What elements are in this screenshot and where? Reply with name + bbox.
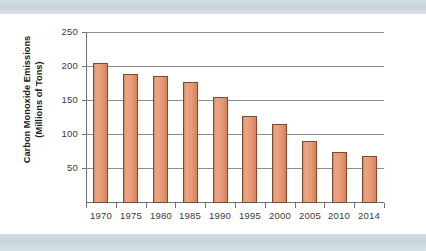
y-axis-tick-label: 150: [46, 95, 78, 105]
y-axis-tick: [82, 32, 86, 33]
bar: [302, 141, 317, 203]
x-axis-tick-labels: 1970197519801985199019952000200520102014: [86, 211, 384, 227]
decorative-band-bottom: [0, 234, 426, 251]
chart-figure: Carbon Monoxide Emissions (Millions of T…: [0, 0, 426, 251]
x-axis-tick-label: 1980: [146, 211, 176, 221]
y-axis-tick-label: 200: [46, 61, 78, 71]
x-axis-tick: [146, 203, 147, 208]
bar: [272, 124, 287, 203]
bar: [332, 152, 347, 203]
y-axis-tick-label: 250: [46, 27, 78, 37]
y-axis-title-line-2: (Millions of Tons): [33, 20, 45, 180]
x-axis-tick: [354, 203, 355, 208]
bar: [93, 63, 108, 203]
bar: [183, 82, 198, 203]
gridline: [86, 66, 384, 67]
bar: [123, 74, 138, 203]
x-axis-tick: [86, 203, 87, 208]
x-axis-tick: [235, 203, 236, 208]
y-axis-tick-labels: 25020015010050: [46, 32, 78, 203]
y-axis-tick: [82, 134, 86, 135]
x-axis-tick-label: 1975: [116, 211, 146, 221]
gridline: [86, 32, 384, 33]
x-axis-tick-label: 2010: [324, 211, 354, 221]
x-axis-tick: [116, 203, 117, 208]
x-axis-tick: [205, 203, 206, 208]
bar: [362, 156, 377, 203]
y-axis-tick: [82, 168, 86, 169]
bar-chart: Carbon Monoxide Emissions (Millions of T…: [0, 14, 426, 234]
x-axis-tick-label: 2014: [354, 211, 384, 221]
x-axis-tick: [295, 203, 296, 208]
y-axis-title: Carbon Monoxide Emissions (Millions of T…: [22, 20, 45, 180]
decorative-band-top: [0, 0, 426, 14]
bar: [213, 97, 228, 203]
y-axis-tick: [82, 66, 86, 67]
x-axis-tick-label: 2005: [295, 211, 325, 221]
y-axis-tick: [82, 100, 86, 101]
y-axis-tick-label: 100: [46, 129, 78, 139]
x-axis-tick-label: 1990: [205, 211, 235, 221]
x-axis-tick-label: 1970: [86, 211, 116, 221]
y-axis-title-line-1: Carbon Monoxide Emissions: [22, 20, 34, 180]
x-axis-tick-label: 1985: [175, 211, 205, 221]
x-axis-tick: [324, 203, 325, 208]
x-axis-tick: [384, 203, 385, 208]
x-axis-tick-label: 2000: [265, 211, 295, 221]
x-axis-tick: [265, 203, 266, 208]
x-axis-ticks: [86, 203, 385, 209]
bar: [153, 76, 168, 203]
plot-area: [86, 32, 384, 202]
x-axis-tick-label: 1995: [235, 211, 265, 221]
x-axis-tick: [175, 203, 176, 208]
y-axis-tick-label: 50: [46, 163, 78, 173]
bar: [242, 116, 257, 203]
